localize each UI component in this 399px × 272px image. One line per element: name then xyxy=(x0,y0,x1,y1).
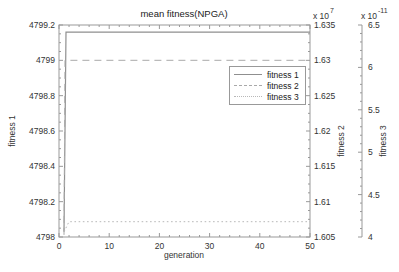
y1-tick-label: 4798.6 xyxy=(29,126,55,136)
y1-tick-label: 4798 xyxy=(36,232,55,242)
x-axis-label: generation xyxy=(164,250,204,260)
y1-tick-label: 4798.8 xyxy=(29,91,55,101)
x-tick-label: 30 xyxy=(205,241,215,251)
x-tick-label: 10 xyxy=(104,241,114,251)
legend-item-fitness-2: fitness 2 xyxy=(230,80,305,91)
y3-tick-label: 6 xyxy=(368,62,373,72)
y1-axis-label: fitness 1 xyxy=(7,115,17,147)
y2-tick-label: 1.62 xyxy=(314,126,331,136)
y2-tick-label: 1.63 xyxy=(314,55,331,65)
y3-tick-label: 4 xyxy=(368,232,373,242)
legend-label: fitness 2 xyxy=(267,81,299,91)
x-tick-label: 40 xyxy=(255,241,265,251)
x-tick-label: 0 xyxy=(57,241,62,251)
y2-tick-label: 1.625 xyxy=(314,91,336,101)
solid-line-sample-icon xyxy=(234,74,262,75)
y2-axis-label: fitness 2 xyxy=(336,125,346,157)
legend-label: fitness 3 xyxy=(267,92,299,102)
y3-multiplier-exponent: -11 xyxy=(378,7,388,14)
y3-tick-label: 4.5 xyxy=(368,190,380,200)
y1-tick-label: 4799.2 xyxy=(29,20,55,30)
y1-tick-label: 4799 xyxy=(36,55,55,65)
plot-border xyxy=(59,25,310,237)
series-line-1 xyxy=(64,32,310,232)
y2-multiplier-exponent: 7 xyxy=(330,7,334,14)
legend-item-fitness-3: fitness 3 xyxy=(230,91,305,102)
legend-box: fitness 1 fitness 2 fitness 3 xyxy=(229,66,306,105)
series-line-3 xyxy=(64,222,310,232)
figure-window: mean fitness(NPGA) generation fitness 1 … xyxy=(0,0,399,272)
x-tick-label: 50 xyxy=(305,241,315,251)
dotted-line-sample-icon xyxy=(234,96,262,97)
y2-tick-label: 1.61 xyxy=(314,197,331,207)
legend-label: fitness 1 xyxy=(267,70,299,80)
y1-tick-label: 4798.4 xyxy=(29,161,55,171)
dashed-line-sample-icon xyxy=(234,85,262,86)
y1-tick-label: 4798.2 xyxy=(29,197,55,207)
chart-canvas: mean fitness(NPGA) generation fitness 1 … xyxy=(0,0,399,272)
y3-tick-label: 5.5 xyxy=(368,105,380,115)
y3-tick-label: 5 xyxy=(368,147,373,157)
y2-tick-label: 1.615 xyxy=(314,161,336,171)
y2-tick-label: 1.605 xyxy=(314,232,336,242)
legend-item-fitness-1: fitness 1 xyxy=(230,69,305,80)
y3-axis-label: fitness 3 xyxy=(378,125,388,157)
y3-tick-label: 6.5 xyxy=(368,20,380,30)
y2-tick-label: 1.635 xyxy=(314,20,336,30)
x-tick-label: 20 xyxy=(155,241,165,251)
chart-title: mean fitness(NPGA) xyxy=(140,8,227,19)
